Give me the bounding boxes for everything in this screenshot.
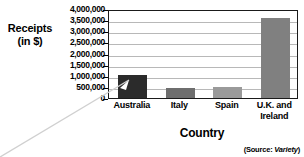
y-axis-tick-mark: [103, 77, 108, 78]
y-axis-tick-mark: [103, 99, 108, 100]
chart-figure: Receipts (in $) 4,000,0003,500,0003,000,…: [0, 0, 304, 157]
y-axis-tick-mark: [103, 10, 108, 11]
x-axis-tick-label: Australia: [108, 100, 156, 111]
bar: [261, 18, 290, 98]
y-axis-tick-label: 1,000,000: [50, 72, 105, 81]
y-axis-tick-mark: [103, 43, 108, 44]
x-axis-tick-labels: AustraliaItalySpainU.K. andIreland: [108, 100, 298, 126]
source-prefix: (Source:: [244, 145, 275, 154]
y-axis-tick-mark: [103, 88, 108, 89]
bar: [213, 87, 242, 98]
y-axis-tick-label: 2,500,000: [50, 38, 105, 47]
y-axis-tick-label: 3,000,000: [50, 27, 105, 36]
bar: [166, 88, 195, 98]
x-axis-tick-label: Spain: [203, 100, 251, 111]
x-axis-tick-label-line: U.K. and: [251, 100, 299, 111]
y-axis-tick-label: 3,500,000: [50, 16, 105, 25]
source-note: (Source: Variety): [244, 145, 300, 154]
source-name: Variety: [274, 145, 297, 154]
y-axis-tick-label: 4,000,000: [50, 5, 105, 14]
x-axis-title: Country: [150, 126, 254, 140]
x-axis-tick-label-line: Ireland: [251, 111, 299, 122]
y-axis-tick-mark: [103, 21, 108, 22]
y-axis-tick-label: 0: [50, 94, 105, 103]
y-axis-tick-mark: [103, 55, 108, 56]
y-axis-tick-mark: [103, 66, 108, 67]
bar-series: [109, 11, 297, 98]
x-axis-tick-label: Italy: [156, 100, 204, 111]
x-axis-tick-label-line: Italy: [156, 100, 204, 111]
x-axis-tick-label-line: Australia: [108, 100, 156, 111]
y-axis-tick-label: 2,000,000: [50, 50, 105, 59]
y-axis-tick-labels: 4,000,0003,500,0003,000,0002,500,0002,00…: [52, 5, 107, 101]
x-axis-tick-label: U.K. andIreland: [251, 100, 299, 121]
plot-area: [108, 10, 298, 99]
x-axis-tick-label-line: Spain: [203, 100, 251, 111]
y-axis-tick-label: 1,500,000: [50, 61, 105, 70]
y-axis-tick-label: 500,000: [50, 83, 105, 92]
source-suffix: ): [298, 145, 300, 154]
bar: [118, 75, 147, 98]
y-axis-tick-mark: [103, 32, 108, 33]
